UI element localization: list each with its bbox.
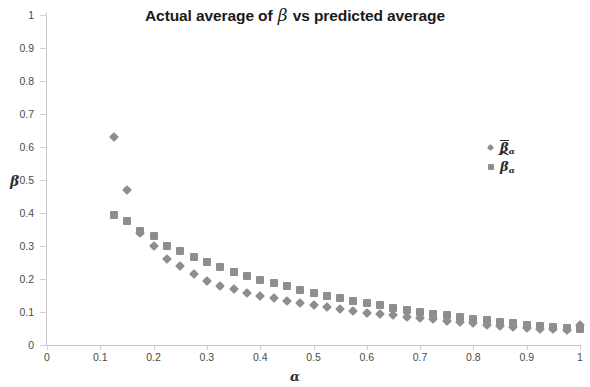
data-point-diamond xyxy=(202,276,212,286)
x-axis-tick-label: 0.2 xyxy=(134,352,174,363)
x-axis-tick-label: 0.3 xyxy=(187,352,227,363)
x-axis-tick xyxy=(100,345,101,350)
data-point-square xyxy=(469,315,477,323)
y-axis-tick-label: 0.7 xyxy=(19,109,34,119)
y-axis-tick-label: 0.9 xyxy=(19,43,34,53)
data-point-square xyxy=(150,232,158,240)
y-axis-tick xyxy=(40,114,47,115)
data-point-diamond xyxy=(362,308,372,318)
data-point-square xyxy=(456,313,464,321)
data-point-square xyxy=(176,247,184,255)
data-point-square xyxy=(549,323,557,331)
legend-marker-square-icon xyxy=(484,164,497,170)
data-point-square xyxy=(523,321,531,329)
x-axis-tick xyxy=(527,345,528,350)
x-axis-tick-label: 1 xyxy=(560,352,590,363)
x-axis-tick-label: 0.1 xyxy=(80,352,120,363)
y-axis-tick xyxy=(40,213,47,214)
data-point-diamond xyxy=(189,269,199,279)
x-axis-tick-label: 0.7 xyxy=(400,352,440,363)
data-point-square xyxy=(190,253,198,261)
data-point-square xyxy=(376,301,384,309)
data-point-diamond xyxy=(295,298,305,308)
data-point-square xyxy=(310,289,318,297)
data-point-square xyxy=(403,306,411,314)
chart-container: Actual average of β vs predicted average… xyxy=(0,0,590,387)
x-axis-tick xyxy=(314,345,315,350)
y-axis-tick-label: 0.3 xyxy=(19,241,34,251)
y-axis-tick-label: 0 xyxy=(28,340,34,350)
y-axis-tick xyxy=(40,279,47,280)
data-point-square xyxy=(416,308,424,316)
x-axis-tick-label: 0.8 xyxy=(453,352,493,363)
data-point-diamond xyxy=(349,306,359,316)
data-point-diamond xyxy=(255,291,265,301)
y-axis-tick xyxy=(40,345,47,346)
y-axis-tick-label: 0.6 xyxy=(19,142,34,152)
data-point-square xyxy=(483,316,491,324)
data-point-square xyxy=(163,242,171,250)
x-axis-tick xyxy=(580,345,581,350)
x-axis-tick-label: 0 xyxy=(27,352,67,363)
chart-legend: βαβα xyxy=(484,138,515,176)
legend-item-label: βα xyxy=(500,159,515,174)
data-point-diamond xyxy=(229,284,239,294)
y-axis-tick-label: 1 xyxy=(28,10,34,20)
data-point-square xyxy=(443,311,451,319)
data-point-square xyxy=(136,227,144,235)
data-point-diamond xyxy=(309,300,319,310)
data-point-square xyxy=(389,304,397,312)
data-point-square xyxy=(296,286,304,294)
data-point-diamond xyxy=(122,185,132,195)
data-point-square xyxy=(256,276,264,284)
data-point-square xyxy=(203,258,211,266)
y-axis-label: β xyxy=(10,173,19,189)
x-axis-tick-label: 0.6 xyxy=(347,352,387,363)
data-point-diamond xyxy=(282,296,292,306)
x-axis-label: α xyxy=(0,369,590,384)
data-point-square xyxy=(336,294,344,302)
data-point-square xyxy=(429,310,437,318)
data-point-square xyxy=(283,282,291,290)
y-axis-tick-label: 0.4 xyxy=(19,208,34,218)
x-axis-tick xyxy=(154,345,155,350)
plot-area xyxy=(47,15,580,345)
data-point-square xyxy=(363,299,371,307)
data-point-diamond xyxy=(215,281,225,291)
data-point-square xyxy=(509,319,517,327)
data-point-diamond xyxy=(162,254,172,264)
y-axis-tick xyxy=(40,48,47,49)
data-point-square xyxy=(110,211,118,219)
x-axis-tick xyxy=(367,345,368,350)
data-point-square xyxy=(216,263,224,271)
data-point-square xyxy=(270,279,278,287)
data-point-diamond xyxy=(149,241,159,251)
x-axis-tick xyxy=(473,345,474,350)
data-point-diamond xyxy=(109,132,119,142)
y-axis-tick xyxy=(40,312,47,313)
data-point-square xyxy=(576,325,584,333)
data-point-diamond xyxy=(388,310,398,320)
data-point-diamond xyxy=(269,293,279,303)
y-axis-tick xyxy=(40,81,47,82)
data-point-diamond xyxy=(375,309,385,319)
data-point-square xyxy=(230,268,238,276)
y-axis-tick xyxy=(40,246,47,247)
x-axis-tick xyxy=(260,345,261,350)
x-axis-tick xyxy=(207,345,208,350)
data-point-diamond xyxy=(175,261,185,271)
y-axis-tick xyxy=(40,15,47,16)
data-point-diamond xyxy=(335,304,345,314)
data-point-square xyxy=(123,217,131,225)
data-point-square xyxy=(563,324,571,332)
y-axis-tick-label: 0.2 xyxy=(19,274,34,284)
x-axis-tick-label: 0.5 xyxy=(294,352,334,363)
y-axis-tick-label: 0.1 xyxy=(19,307,34,317)
x-axis-tick xyxy=(420,345,421,350)
data-point-square xyxy=(349,297,357,305)
x-axis-tick-label: 0.4 xyxy=(240,352,280,363)
y-axis-tick-label: 0.8 xyxy=(19,76,34,86)
data-point-square xyxy=(536,322,544,330)
y-axis-tick-label: 0.5 xyxy=(19,175,34,185)
y-axis-tick xyxy=(40,180,47,181)
